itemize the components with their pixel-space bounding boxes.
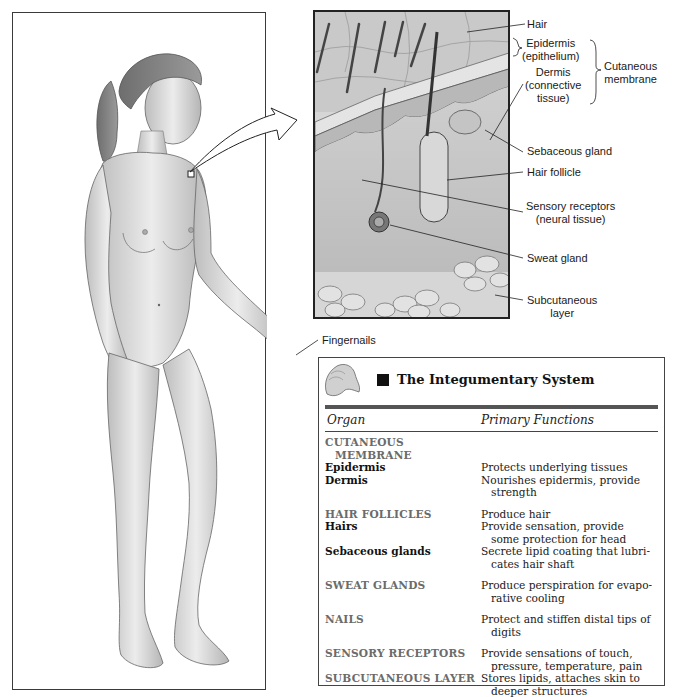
label-cutaneous-subtitle: membrane [604, 73, 657, 86]
function-cell: Nourishes epidermis, provide [481, 474, 660, 487]
header-divider [325, 431, 658, 432]
table-rows: CUTANEOUS MEMBRANE EpidermisProtects und… [325, 436, 660, 697]
table-row: SWEAT GLANDSProduce perspiration for eva… [325, 579, 660, 592]
table-row: DermisNourishes epidermis, provide [325, 474, 660, 487]
table-row: cates hair shaft [325, 558, 660, 571]
function-cell: some protection for head [481, 533, 660, 546]
function-cell: rative cooling [481, 592, 660, 605]
function-cell: Protects underlying tissues [481, 461, 660, 474]
label-sweat-gland: Sweat gland [527, 252, 588, 265]
function-cell: digits [481, 626, 660, 639]
table-row: SUBCUTANEOUS LAYERStores lipids, attache… [325, 672, 660, 685]
label-dermis-subtitle-1: (connective [525, 79, 581, 92]
black-square-icon [377, 374, 389, 386]
organ-cell: SENSORY RECEPTORS [325, 647, 481, 660]
organ-cell: CUTANEOUS [325, 436, 481, 449]
table-row: rative cooling [325, 592, 660, 605]
label-subcutaneous-title: Subcutaneous [527, 294, 597, 307]
organ-cell [325, 685, 481, 697]
function-cell: Produce hair [481, 508, 660, 521]
table-row: SENSORY RECEPTORSProvide sensations of t… [325, 647, 660, 660]
heavy-divider [325, 405, 658, 409]
organ-cell [325, 558, 481, 571]
table-row: NAILSProtect and stiffen distal tips of [325, 613, 660, 626]
table-row: HairsProvide sensation, provide [325, 520, 660, 533]
table-row: digits [325, 626, 660, 639]
label-cutaneous-title: Cutaneous [604, 60, 657, 73]
zoom-arrow-icon [185, 100, 305, 180]
skin-cross-section-inset [313, 10, 510, 319]
function-cell: Provide sensations of touch, [481, 647, 660, 660]
function-cell [481, 436, 660, 449]
hand-thumbnail-icon [321, 360, 365, 404]
label-dermis-title: Dermis [525, 66, 581, 79]
label-epidermis-subtitle: (epithelium) [522, 50, 579, 63]
table-title-text: The Integumentary System [397, 372, 594, 387]
label-hair: Hair [527, 18, 547, 31]
organ-cell [325, 592, 481, 605]
label-sebaceous-gland: Sebaceous gland [527, 145, 612, 158]
organ-cell: Epidermis [325, 461, 481, 474]
table-row: EpidermisProtects underlying tissues [325, 461, 660, 474]
label-sensory-subtitle: (neural tissue) [526, 213, 615, 226]
organ-cell [325, 660, 481, 673]
function-cell: Protect and stiffen distal tips of [481, 613, 660, 626]
label-sensory-title: Sensory receptors [526, 200, 615, 213]
function-cell: Provide sensation, provide [481, 520, 660, 533]
organ-cell: SUBCUTANEOUS LAYER [325, 672, 481, 685]
table-row: deeper structures [325, 685, 660, 697]
label-epidermis: Epidermis (epithelium) [522, 37, 579, 63]
organ-cell [325, 486, 481, 499]
organ-cell: Dermis [325, 474, 481, 487]
label-fingernails: Fingernails [322, 334, 376, 347]
function-cell: cates hair shaft [481, 558, 660, 571]
label-subcutaneous-subtitle: layer [527, 307, 597, 320]
label-hair-follicle: Hair follicle [527, 166, 581, 179]
organ-cell: MEMBRANE [325, 449, 481, 462]
table-row: CUTANEOUS [325, 436, 660, 449]
function-cell: Secrete lipid coating that lubri- [481, 545, 660, 558]
table-row: pressure, temperature, pain [325, 660, 660, 673]
organ-cell: NAILS [325, 613, 481, 626]
organ-cell: SWEAT GLANDS [325, 579, 481, 592]
table-title: The Integumentary System [377, 372, 594, 387]
function-cell: strength [481, 486, 660, 499]
label-dermis: Dermis (connective tissue) [525, 66, 581, 105]
organ-cell: HAIR FOLLICLES [325, 508, 481, 521]
function-cell: Stores lipids, attaches skin to [481, 672, 660, 685]
label-dermis-subtitle-2: tissue) [525, 92, 581, 105]
table-row: some protection for head [325, 533, 660, 546]
table-row: strength [325, 486, 660, 499]
integumentary-system-table: The Integumentary System Organ Primary F… [318, 357, 665, 686]
function-cell: deeper structures [481, 685, 660, 697]
organ-cell [325, 626, 481, 639]
label-epidermis-title: Epidermis [522, 37, 579, 50]
column-header-organ: Organ [327, 413, 365, 427]
skin-layers-illustration [315, 12, 510, 319]
organ-cell [325, 533, 481, 546]
column-header-functions: Primary Functions [481, 413, 594, 427]
function-cell: Produce perspiration for evapo- [481, 579, 660, 592]
function-cell [481, 449, 660, 462]
table-row: MEMBRANE [325, 449, 660, 462]
function-cell: pressure, temperature, pain [481, 660, 660, 673]
label-sensory-receptors: Sensory receptors (neural tissue) [526, 200, 615, 226]
label-subcutaneous-layer: Subcutaneous layer [527, 294, 597, 320]
label-cutaneous-membrane: Cutaneous membrane [604, 60, 657, 86]
organ-cell: Sebaceous glands [325, 545, 481, 558]
table-row: Sebaceous glandsSecrete lipid coating th… [325, 545, 660, 558]
organ-cell: Hairs [325, 520, 481, 533]
table-row: HAIR FOLLICLESProduce hair [325, 508, 660, 521]
